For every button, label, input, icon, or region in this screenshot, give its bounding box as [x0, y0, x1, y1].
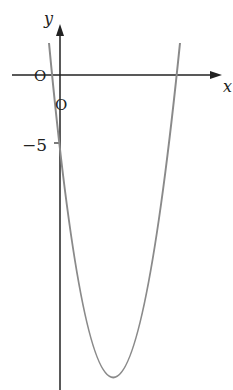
x-axis-label: x: [223, 77, 232, 96]
parabola-curve: [49, 43, 180, 378]
y-intercept-label: O: [55, 96, 67, 114]
x-axis-arrow-icon: [210, 71, 222, 79]
tick-label-minus-5: −5: [22, 135, 47, 155]
parabola-graph: y x O O −5: [0, 0, 233, 390]
origin-label: O: [34, 67, 46, 85]
y-axis-label: y: [43, 9, 54, 28]
y-axis-arrow-icon: [56, 24, 64, 36]
